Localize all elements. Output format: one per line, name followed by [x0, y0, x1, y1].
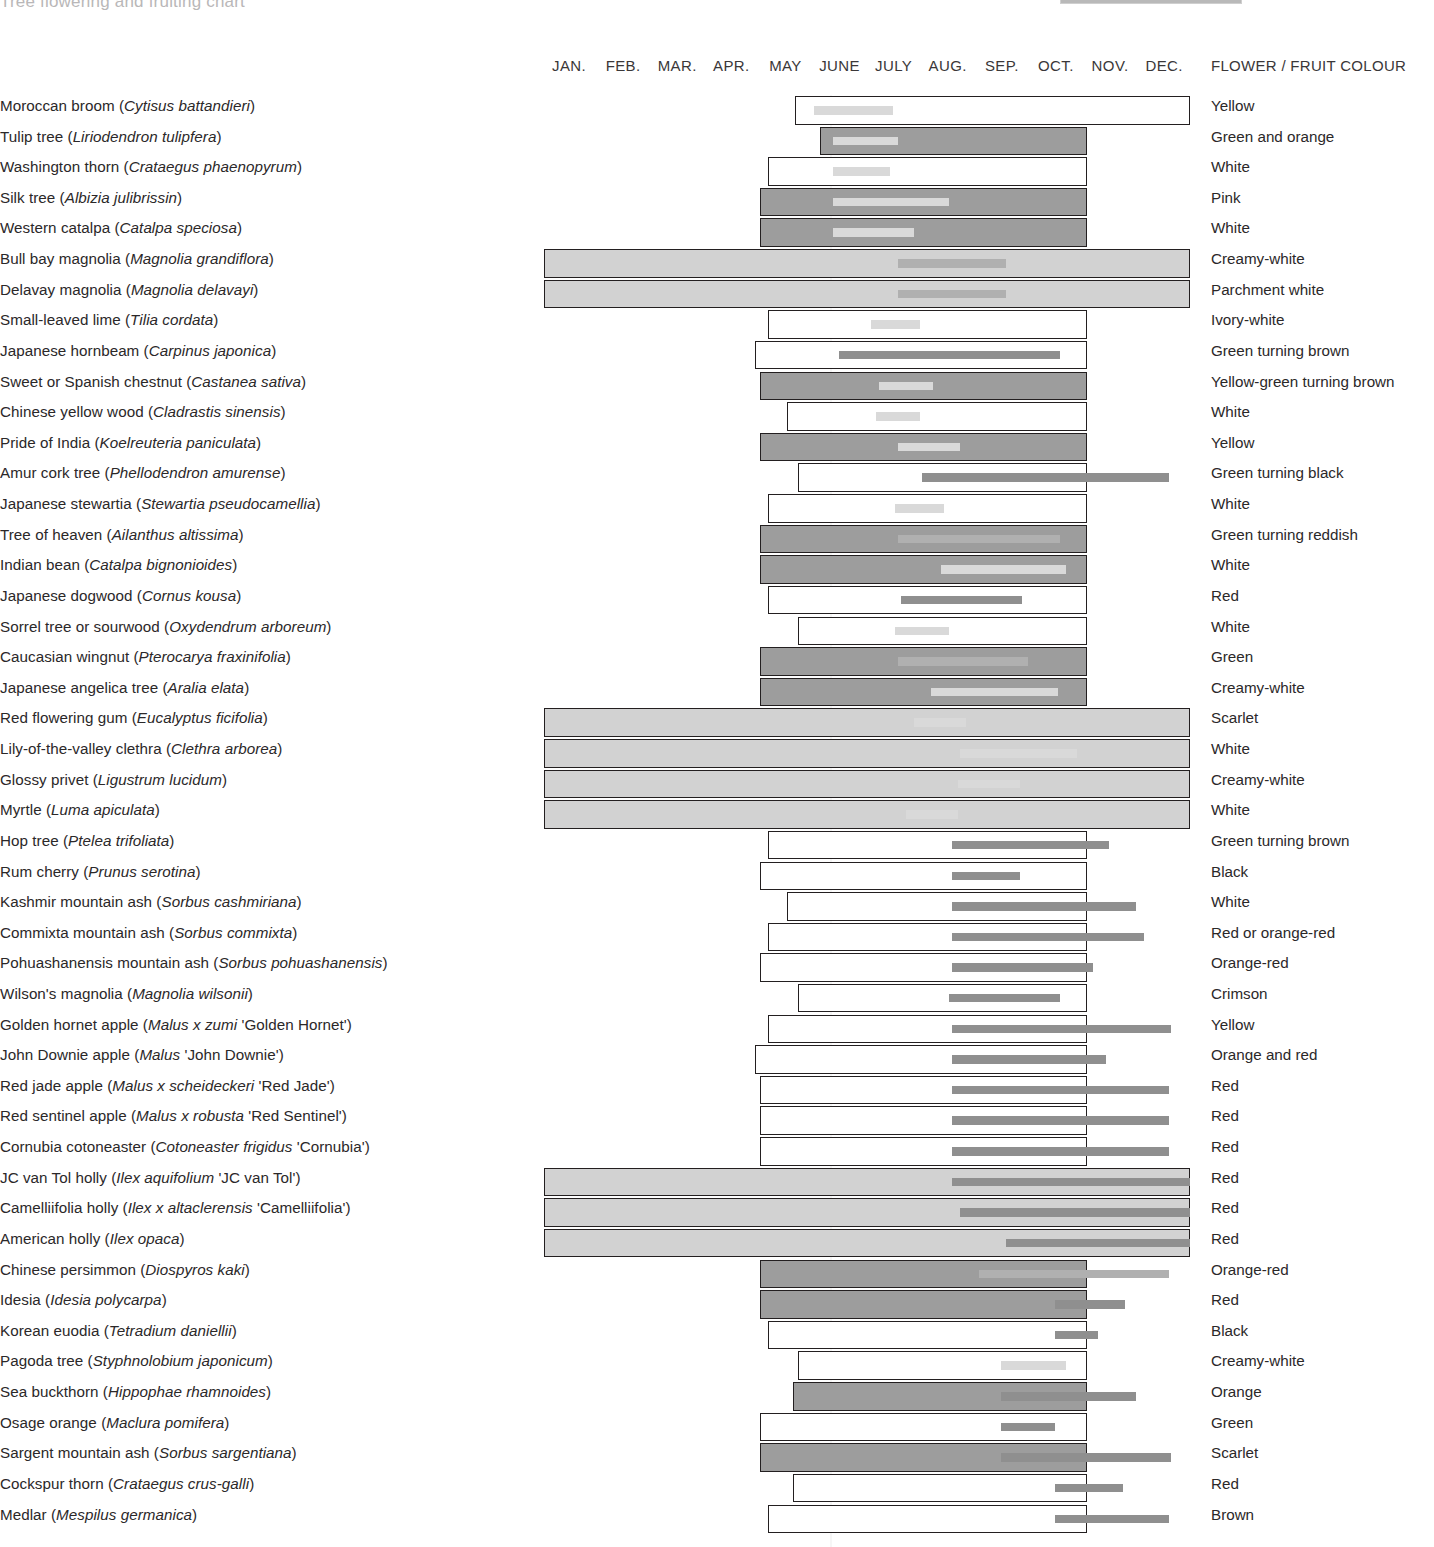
flowering-time-bar	[839, 351, 1061, 360]
flowering-time-bar	[898, 535, 1060, 544]
month-label-may: MAY	[758, 57, 812, 74]
flowering-time-bar	[952, 1055, 1106, 1064]
species-label: Indian bean (Catalpa bignonioides)	[0, 556, 530, 573]
species-label: Hop tree (Ptelea trifoliata)	[0, 832, 530, 849]
flower-fruit-colour: Crimson	[1211, 985, 1434, 1002]
season-span-bar	[768, 310, 1087, 339]
flower-fruit-colour: Red	[1211, 1107, 1434, 1124]
season-span-bar	[787, 402, 1087, 431]
flowering-time-bar	[833, 228, 914, 237]
flowering-time-bar	[1055, 1331, 1098, 1340]
flower-fruit-colour: White	[1211, 495, 1434, 512]
flower-fruit-colour: Pink	[1211, 189, 1434, 206]
month-label-nov: NOV.	[1083, 57, 1137, 74]
flower-fruit-colour: Red or orange-red	[1211, 924, 1434, 941]
species-label: Amur cork tree (Phellodendron amurense)	[0, 464, 530, 481]
season-span-bar	[760, 218, 1087, 247]
species-label: Silk tree (Albizia julibrissin)	[0, 189, 530, 206]
flower-fruit-colour: Orange-red	[1211, 1261, 1434, 1278]
species-label: Sweet or Spanish chestnut (Castanea sati…	[0, 373, 530, 390]
month-label-june: JUNE	[813, 57, 867, 74]
chart-row: Lily-of-the-valley clethra (Clethra arbo…	[0, 738, 1434, 769]
species-label: Commixta mountain ash (Sorbus commixta)	[0, 924, 530, 941]
flower-fruit-colour: Yellow	[1211, 434, 1434, 451]
flower-fruit-colour: Red	[1211, 1199, 1434, 1216]
flowering-time-bar	[1001, 1453, 1171, 1462]
season-span-bar	[544, 800, 1190, 829]
species-label: Camelliifolia holly (Ilex x altaclerensi…	[0, 1199, 530, 1216]
chart-row: Japanese stewartia (Stewartia pseudocame…	[0, 493, 1434, 524]
species-label: Myrtle (Luma apiculata)	[0, 801, 530, 818]
flower-fruit-colour: Red	[1211, 1077, 1434, 1094]
flowering-time-bar	[979, 1270, 1168, 1279]
species-label: John Downie apple (Malus 'John Downie')	[0, 1046, 530, 1063]
flower-fruit-colour: Orange and red	[1211, 1046, 1434, 1063]
chart-row: Idesia (Idesia polycarpa)Red	[0, 1289, 1434, 1320]
flower-fruit-colour: Creamy-white	[1211, 250, 1434, 267]
flowering-time-bar	[833, 137, 898, 146]
chart-row: Camelliifolia holly (Ilex x altaclerensi…	[0, 1197, 1434, 1228]
flowering-time-bar	[952, 1178, 1190, 1187]
flowering-time-bar	[833, 198, 949, 207]
species-label: Delavay magnolia (Magnolia delavayi)	[0, 281, 530, 298]
top-banner: Tree flowering and fruiting chart FLOWER…	[0, 0, 1434, 56]
flower-fruit-colour: White	[1211, 403, 1434, 420]
season-span-bar	[768, 157, 1087, 186]
flowering-time-bar	[1055, 1484, 1123, 1493]
species-label: Idesia (Idesia polycarpa)	[0, 1291, 530, 1308]
legend-label: FLOWERING TIME	[1260, 0, 1399, 3]
species-label: Sargent mountain ash (Sorbus sargentiana…	[0, 1444, 530, 1461]
species-label: Small-leaved lime (Tilia cordata)	[0, 311, 530, 328]
chart-row: Sorrel tree or sourwood (Oxydendrum arbo…	[0, 616, 1434, 647]
flower-fruit-colour: Scarlet	[1211, 1444, 1434, 1461]
flowering-time-bar	[1006, 1239, 1190, 1248]
flowering-time-bar	[949, 994, 1060, 1003]
flowering-time-bar	[1001, 1392, 1136, 1401]
flower-fruit-colour: Green turning brown	[1211, 832, 1434, 849]
chart-row: Korean euodia (Tetradium daniellii)Black	[0, 1320, 1434, 1351]
flower-fruit-colour: Red	[1211, 1475, 1434, 1492]
species-label: Red flowering gum (Eucalyptus ficifolia)	[0, 709, 530, 726]
flowering-time-bar	[952, 933, 1144, 942]
species-label: Medlar (Mespilus germanica)	[0, 1506, 530, 1523]
species-label: Japanese hornbeam (Carpinus japonica)	[0, 342, 530, 359]
month-label-sep: SEP.	[975, 57, 1029, 74]
season-span-bar	[544, 249, 1190, 278]
chart-row: Commixta mountain ash (Sorbus commixta)R…	[0, 922, 1434, 953]
flowering-time-bar	[914, 718, 965, 727]
month-label-aug: AUG.	[921, 57, 975, 74]
flowering-time-bar	[898, 657, 1028, 666]
species-label: Kashmir mountain ash (Sorbus cashmiriana…	[0, 893, 530, 910]
flower-fruit-colour: Red	[1211, 1169, 1434, 1186]
chart-row: Tulip tree (Liriodendron tulipfera)Green…	[0, 126, 1434, 157]
chart-row: Moroccan broom (Cytisus battandieri)Yell…	[0, 95, 1434, 126]
colour-column-header: FLOWER / FRUIT COLOUR	[1211, 57, 1406, 74]
season-span-bar	[544, 280, 1190, 309]
chart-row: Western catalpa (Catalpa speciosa)White	[0, 217, 1434, 248]
flower-fruit-colour: Creamy-white	[1211, 1352, 1434, 1369]
chart-row: Pride of India (Koelreuteria paniculata)…	[0, 432, 1434, 463]
flowering-time-bar	[952, 1147, 1168, 1156]
chart-row: Japanese hornbeam (Carpinus japonica)Gre…	[0, 340, 1434, 371]
species-label: Moroccan broom (Cytisus battandieri)	[0, 97, 530, 114]
chart-row: Kashmir mountain ash (Sorbus cashmiriana…	[0, 891, 1434, 922]
flowering-time-bar	[833, 167, 890, 176]
flowering-time-bar	[906, 810, 957, 819]
species-label: Tree of heaven (Ailanthus altissima)	[0, 526, 530, 543]
flower-fruit-colour: White	[1211, 801, 1434, 818]
chart-row: Glossy privet (Ligustrum lucidum)Creamy-…	[0, 769, 1434, 800]
flower-fruit-colour: Parchment white	[1211, 281, 1434, 298]
flowering-time-bar	[952, 1086, 1168, 1095]
chart-row: Cornubia cotoneaster (Cotoneaster frigid…	[0, 1136, 1434, 1167]
chart-row: Pagoda tree (Styphnolobium japonicum)Cre…	[0, 1350, 1434, 1381]
species-label: Pagoda tree (Styphnolobium japonicum)	[0, 1352, 530, 1369]
flowering-time-bar	[941, 565, 1065, 574]
flower-fruit-colour: Red	[1211, 1291, 1434, 1308]
month-label-apr: APR.	[704, 57, 758, 74]
species-label: Japanese angelica tree (Aralia elata)	[0, 679, 530, 696]
species-label: Bull bay magnolia (Magnolia grandiflora)	[0, 250, 530, 267]
month-label-dec: DEC.	[1137, 57, 1191, 74]
species-label: Lily-of-the-valley clethra (Clethra arbo…	[0, 740, 530, 757]
species-label: Golden hornet apple (Malus x zumi 'Golde…	[0, 1016, 530, 1033]
flowering-time-bar	[952, 1116, 1168, 1125]
